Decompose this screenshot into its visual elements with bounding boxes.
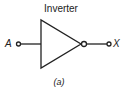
buffer-triangle-icon: [41, 20, 81, 68]
figure-caption: (a): [0, 77, 118, 87]
inversion-bubble-icon: [82, 42, 87, 47]
input-terminal-icon: [17, 42, 21, 46]
output-terminal-icon: [107, 42, 111, 46]
